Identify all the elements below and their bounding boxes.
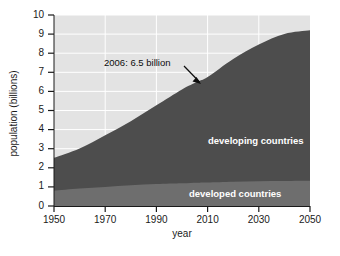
y-axis-tick-label: 10 bbox=[20, 10, 44, 20]
series-label-developed-countries: developed countries bbox=[189, 188, 281, 199]
y-axis-tick-label: 5 bbox=[20, 105, 44, 115]
x-axis-title: year bbox=[54, 228, 310, 239]
population-projection-chart: 012345678910 195019701990201020302050 po… bbox=[0, 0, 340, 256]
annotation-2006-population: 2006: 6.5 billion bbox=[104, 57, 171, 68]
y-axis-tick-label: 9 bbox=[20, 29, 44, 39]
y-axis-tick-label: 0 bbox=[20, 201, 44, 211]
y-axis-title: population (billions) bbox=[8, 54, 19, 174]
x-axis-tick-label: 1990 bbox=[131, 215, 181, 225]
x-axis-tick-label: 2050 bbox=[285, 215, 335, 225]
series-label-developing-countries: developing countries bbox=[208, 135, 304, 146]
x-axis-tick-label: 1950 bbox=[29, 215, 79, 225]
x-axis-tick-label: 2010 bbox=[183, 215, 233, 225]
x-axis-tick-label: 1970 bbox=[80, 215, 130, 225]
y-axis-tick-label: 7 bbox=[20, 67, 44, 77]
y-axis-tick-label: 3 bbox=[20, 143, 44, 153]
y-axis-tick-label: 4 bbox=[20, 124, 44, 134]
y-axis-tick-label: 8 bbox=[20, 48, 44, 58]
y-axis-tick-label: 1 bbox=[20, 181, 44, 191]
y-axis-tick-label: 6 bbox=[20, 86, 44, 96]
y-axis-tick-label: 2 bbox=[20, 162, 44, 172]
x-axis-tick-label: 2030 bbox=[234, 215, 284, 225]
